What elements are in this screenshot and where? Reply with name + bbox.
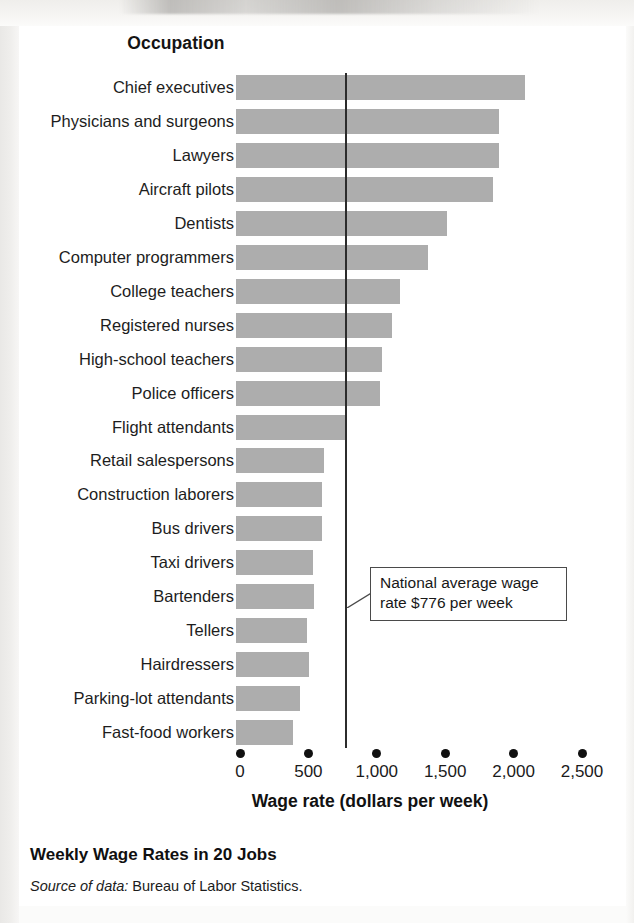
figure-source-text: Bureau of Labor Statistics. xyxy=(128,878,302,894)
figure-source-prefix: Source of data: xyxy=(30,878,128,894)
bar xyxy=(236,313,392,338)
bar xyxy=(236,415,347,440)
bar xyxy=(236,75,525,100)
x-axis-title: Wage rate (dollars per week) xyxy=(150,791,590,812)
bar xyxy=(236,720,293,745)
x-axis-tick-dot xyxy=(304,749,313,758)
x-axis-tick-dot xyxy=(578,749,587,758)
category-label: Chief executives xyxy=(14,79,234,96)
bar xyxy=(236,381,380,406)
bar xyxy=(236,279,400,304)
category-label: Fast-food workers xyxy=(14,724,234,741)
x-axis-tick-label: 2,500 xyxy=(537,762,627,782)
bar xyxy=(236,109,499,134)
category-label: Police officers xyxy=(14,385,234,402)
category-label: Taxi drivers xyxy=(14,554,234,571)
bar xyxy=(236,143,499,168)
category-label: Bus drivers xyxy=(14,520,234,537)
bar xyxy=(236,177,493,202)
bar xyxy=(236,652,309,677)
category-label: Retail salespersons xyxy=(14,452,234,469)
bar xyxy=(236,550,313,575)
callout-line-1: National average wage xyxy=(380,573,558,593)
reference-line xyxy=(345,73,347,748)
category-label: Aircraft pilots xyxy=(14,181,234,198)
reference-line-callout: National average wage rate $776 per week xyxy=(370,567,567,621)
category-label: Parking-lot attendants xyxy=(14,690,234,707)
bar xyxy=(236,686,300,711)
category-label: Lawyers xyxy=(14,147,234,164)
figure-title: Weekly Wage Rates in 20 Jobs xyxy=(30,845,277,865)
x-axis-tick-dot xyxy=(372,749,381,758)
category-label: Flight attendants xyxy=(14,419,234,436)
bar xyxy=(236,618,307,643)
bar xyxy=(236,584,314,609)
bar-chart: Occupation Chief executivesPhysicians an… xyxy=(0,0,634,923)
category-label: Dentists xyxy=(14,215,234,232)
x-axis-tick-dot xyxy=(509,749,518,758)
bar xyxy=(236,448,324,473)
category-axis-header: Occupation xyxy=(60,33,292,54)
bar xyxy=(236,245,428,270)
bar xyxy=(236,482,322,507)
category-label: High-school teachers xyxy=(14,351,234,368)
category-label: Hairdressers xyxy=(14,656,234,673)
x-axis-tick-dot xyxy=(236,749,245,758)
figure-page: Occupation Chief executivesPhysicians an… xyxy=(0,0,634,923)
category-label: Registered nurses xyxy=(14,317,234,334)
category-label: Construction laborers xyxy=(14,486,234,503)
category-label: Computer programmers xyxy=(14,249,234,266)
callout-line-2: rate $776 per week xyxy=(380,593,558,613)
x-axis-tick-dot xyxy=(441,749,450,758)
category-label: Physicians and surgeons xyxy=(14,113,234,130)
category-label: Bartenders xyxy=(14,588,234,605)
category-label: College teachers xyxy=(14,283,234,300)
category-label: Tellers xyxy=(14,622,234,639)
bar xyxy=(236,347,382,372)
figure-source: Source of data: Bureau of Labor Statisti… xyxy=(30,878,302,894)
bar xyxy=(236,516,322,541)
bar xyxy=(236,211,447,236)
